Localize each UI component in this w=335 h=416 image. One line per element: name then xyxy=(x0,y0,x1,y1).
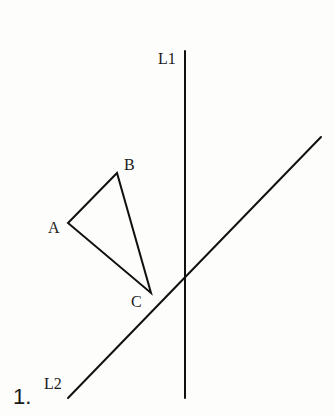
line-l2-label: L2 xyxy=(44,375,62,392)
line-l2 xyxy=(68,137,321,398)
triangle-abc xyxy=(68,173,151,293)
vertex-a-label: A xyxy=(48,219,60,236)
reflection-diagram: L1 L2 A B C 1. xyxy=(0,0,335,416)
line-l1-label: L1 xyxy=(158,50,176,67)
vertex-c-label: C xyxy=(131,293,142,310)
vertex-b-label: B xyxy=(124,156,135,173)
problem-number: 1. xyxy=(13,384,31,409)
